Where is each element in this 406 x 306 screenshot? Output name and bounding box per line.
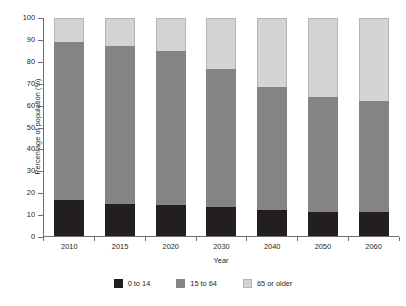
y-axis-tick: 60 <box>38 106 43 107</box>
legend-swatch-icon <box>243 279 252 288</box>
y-axis-tick-label: 20 <box>27 188 35 197</box>
segment-15-to-64[interactable] <box>206 69 236 206</box>
x-axis-title: Year <box>43 256 399 265</box>
y-axis-tick-label: 50 <box>27 123 35 132</box>
x-axis-tick <box>399 237 400 241</box>
segment-65-or-older[interactable] <box>105 18 135 46</box>
x-axis-tick-label: 2030 <box>213 242 229 251</box>
legend-item[interactable]: 0 to 14 <box>114 279 151 288</box>
y-axis-tick-label: 60 <box>27 101 35 110</box>
segment-65-or-older[interactable] <box>54 18 84 42</box>
y-axis-tick-label: 30 <box>27 166 35 175</box>
y-axis-tick-label: 10 <box>27 210 35 219</box>
segment-0-to-14[interactable] <box>308 212 338 236</box>
bar-group-2060[interactable]: 2060 <box>359 18 389 236</box>
segment-15-to-64[interactable] <box>359 101 389 212</box>
bar-group-2010[interactable]: 2010 <box>54 18 84 236</box>
x-axis-tick-label: 2040 <box>264 242 280 251</box>
y-axis-tick: 20 <box>38 193 43 194</box>
x-axis-tick-label: 2050 <box>315 242 331 251</box>
legend-label: 65 or older <box>257 279 292 288</box>
segment-15-to-64[interactable] <box>156 51 186 206</box>
segment-65-or-older[interactable] <box>257 18 287 87</box>
segment-0-to-14[interactable] <box>156 205 186 236</box>
segment-15-to-64[interactable] <box>54 42 84 200</box>
legend-item[interactable]: 15 to 64 <box>176 279 217 288</box>
y-axis-tick: 10 <box>38 215 43 216</box>
segment-65-or-older[interactable] <box>156 18 186 51</box>
x-axis-tick <box>196 237 197 241</box>
y-axis-tick-label: 70 <box>27 79 35 88</box>
bar-series-container: 2010201520202030204020502060 <box>44 18 399 236</box>
x-axis-tick <box>145 237 146 241</box>
y-axis-tick-label: 90 <box>27 35 35 44</box>
segment-15-to-64[interactable] <box>308 97 338 213</box>
x-axis-tick <box>348 237 349 241</box>
x-axis-tick <box>94 237 95 241</box>
y-axis-tick: 40 <box>38 149 43 150</box>
x-axis-tick-label: 2060 <box>365 242 381 251</box>
y-axis-tick: 80 <box>38 62 43 63</box>
bar-group-2030[interactable]: 2030 <box>206 18 236 236</box>
x-axis-tick-label: 2020 <box>163 242 179 251</box>
x-axis-tick-label: 2015 <box>112 242 128 251</box>
bar-group-2015[interactable]: 2015 <box>105 18 135 236</box>
chart-legend: 0 to 1415 to 6465 or older <box>0 279 406 288</box>
x-axis-tick <box>297 237 298 241</box>
segment-0-to-14[interactable] <box>105 204 135 236</box>
y-axis-tick: 30 <box>38 171 43 172</box>
x-axis-tick-label: 2010 <box>61 242 77 251</box>
y-axis-tick: 100 <box>38 18 43 19</box>
x-axis-line <box>43 236 399 237</box>
y-axis-tick-label: 100 <box>23 13 35 22</box>
x-axis-tick <box>43 237 44 241</box>
y-axis-tick: 70 <box>38 84 43 85</box>
legend-swatch-icon <box>176 279 185 288</box>
legend-label: 0 to 14 <box>128 279 151 288</box>
segment-65-or-older[interactable] <box>308 18 338 96</box>
bar-group-2050[interactable]: 2050 <box>308 18 338 236</box>
segment-65-or-older[interactable] <box>359 18 389 101</box>
segment-15-to-64[interactable] <box>257 87 287 210</box>
segment-0-to-14[interactable] <box>359 212 389 236</box>
x-axis-tick <box>246 237 247 241</box>
segment-0-to-14[interactable] <box>54 200 84 236</box>
y-axis-tick-label: 0 <box>31 232 35 241</box>
y-axis-tick-label: 40 <box>27 144 35 153</box>
plot-area: 0102030405060708090100 20102015202020302… <box>43 18 399 237</box>
y-axis-tick: 50 <box>38 128 43 129</box>
y-axis-tick-label: 80 <box>27 57 35 66</box>
legend-item[interactable]: 65 or older <box>243 279 292 288</box>
segment-0-to-14[interactable] <box>206 207 236 236</box>
segment-0-to-14[interactable] <box>257 210 287 236</box>
y-axis-tick: 90 <box>38 40 43 41</box>
bar-group-2020[interactable]: 2020 <box>156 18 186 236</box>
segment-15-to-64[interactable] <box>105 46 135 204</box>
segment-65-or-older[interactable] <box>206 18 236 69</box>
legend-label: 15 to 64 <box>190 279 217 288</box>
bar-group-2040[interactable]: 2040 <box>257 18 287 236</box>
legend-swatch-icon <box>114 279 123 288</box>
stacked-bar-chart: Percentage of population (%) 01020304050… <box>0 0 406 306</box>
